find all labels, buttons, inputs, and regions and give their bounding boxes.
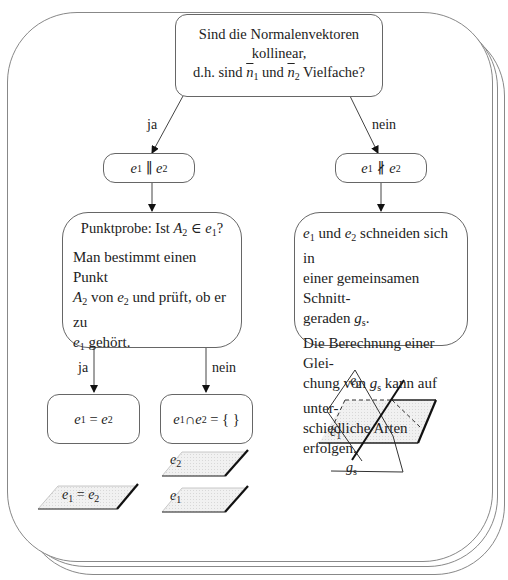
label-no-top: nein <box>372 117 396 133</box>
parallel-box: e1 ∥ e2 <box>103 153 195 183</box>
intersect-e1-label: e1 <box>330 424 341 441</box>
question-line-2: kollinear, <box>252 44 307 63</box>
intersect-e2-label: e2 <box>350 373 361 390</box>
identical-plane-label: e1 = e2 <box>62 487 99 504</box>
question-line-1: Sind die Normalenvektoren <box>199 25 359 44</box>
point-test-box: Punktprobe: Ist A2 ∈ e1? Man bestimmt ei… <box>62 212 242 348</box>
intersect-gs-label: gs <box>346 460 357 477</box>
not-parallel-box: e1 ∦ e2 <box>335 153 427 183</box>
disjoint-box: e1∩e2 = { } <box>160 394 253 444</box>
question-box: Sind die Normalenvektoren kollinear, d.h… <box>175 14 383 97</box>
label-yes-bottom: ja <box>78 360 88 376</box>
label-no-bottom: nein <box>212 360 236 376</box>
identical-box: e1 = e2 <box>47 394 140 444</box>
question-line-3: d.h. sind n1 und n2 Vielfache? <box>193 63 365 86</box>
intersection-box: e1 und e2 schneiden sich in einer gemein… <box>294 212 468 346</box>
point-test-body: Man bestimmt einen Punkt A2 von e2 und p… <box>73 247 231 357</box>
parallel-upper-label: e2 <box>170 452 181 469</box>
point-test-title: Punktprobe: Ist A2 ∈ e1? <box>73 219 231 242</box>
parallel-lower-label: e1 <box>170 488 181 505</box>
label-yes-top: ja <box>147 117 157 133</box>
normal-vector-2: n <box>287 64 294 80</box>
